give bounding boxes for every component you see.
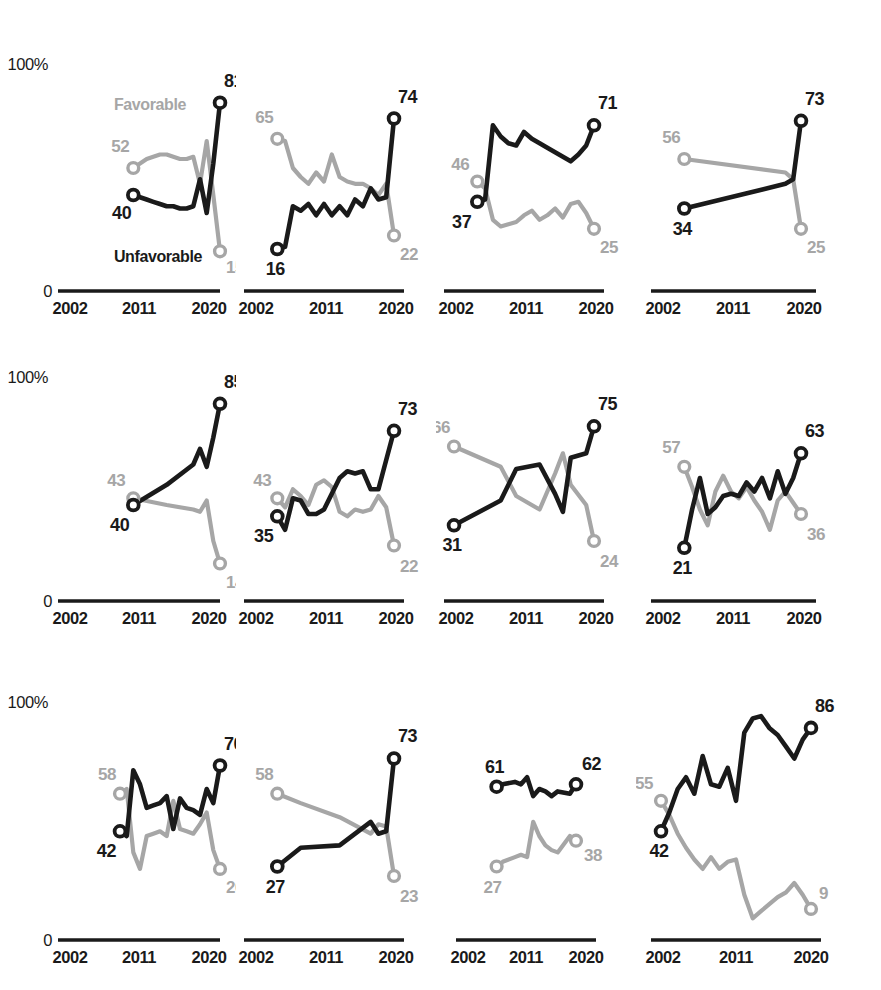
value-label: 63: [805, 421, 825, 441]
endpoint-marker: [215, 398, 226, 409]
endpoint-marker: [589, 421, 600, 432]
value-label: 15: [226, 258, 236, 277]
endpoint-marker: [589, 536, 600, 547]
unfavorable-line: [477, 125, 594, 202]
value-label: 27: [266, 877, 286, 897]
value-label: 25: [600, 238, 618, 257]
endpoint-marker: [679, 461, 690, 472]
value-label: Unfavorable: [114, 248, 203, 265]
value-label: 85: [224, 372, 236, 392]
endpoint-marker: [491, 861, 502, 872]
endpoint-marker: [389, 230, 400, 241]
value-label: 2020: [578, 299, 613, 317]
endpoint-marker: [571, 779, 582, 790]
favorable-line: [454, 447, 594, 542]
value-label: 65: [255, 108, 273, 127]
value-label: 38: [584, 846, 602, 865]
value-label: 2020: [191, 948, 226, 966]
favorable-line: [277, 139, 394, 236]
value-label: 2002: [238, 299, 273, 317]
panel-japan: 5594286200220112020: [636, 650, 881, 990]
endpoint-marker: [272, 788, 283, 799]
value-label: 27: [484, 878, 502, 897]
value-label: 55: [636, 774, 653, 793]
value-label: 2002: [52, 299, 87, 317]
value-label: 2002: [238, 948, 273, 966]
value-label: 81: [224, 71, 236, 91]
value-label: 43: [253, 471, 271, 490]
value-label: 2011: [122, 299, 156, 317]
value-label: 2011: [122, 609, 156, 627]
value-label: 0: [43, 931, 52, 949]
endpoint-marker: [272, 861, 283, 872]
endpoint-marker: [796, 115, 807, 126]
endpoint-marker: [449, 441, 460, 452]
value-label: 21: [673, 558, 693, 578]
value-label: 2002: [438, 299, 473, 317]
endpoint-marker: [272, 511, 283, 522]
value-label: 2020: [378, 609, 413, 627]
panel-us: 43223573200220112020: [236, 325, 436, 650]
panel-germany: 46253771200220112020: [436, 0, 636, 325]
value-label: 70: [224, 734, 236, 754]
value-label: 100%: [7, 693, 48, 711]
value-label: 2011: [309, 299, 343, 317]
endpoint-marker: [272, 493, 283, 504]
value-label: 2020: [786, 299, 821, 317]
value-label: 34: [673, 219, 693, 239]
value-label: 73: [398, 399, 418, 419]
value-label: 62: [582, 754, 602, 774]
endpoint-marker: [272, 133, 283, 144]
endpoint-marker: [272, 244, 283, 255]
endpoint-marker: [796, 448, 807, 459]
value-label: 86: [815, 696, 835, 716]
unfavorable-line: [684, 121, 801, 209]
endpoint-marker: [215, 558, 226, 569]
endpoint-marker: [472, 176, 483, 187]
value-label: 2020: [568, 948, 603, 966]
value-label: 22: [400, 557, 418, 576]
endpoint-marker: [115, 788, 126, 799]
unfavorable-line: [277, 759, 394, 867]
value-label: 26: [226, 878, 236, 897]
value-label: 2011: [509, 299, 543, 317]
value-label: 2002: [52, 609, 87, 627]
value-label: 61: [485, 757, 505, 777]
value-label: 74: [398, 87, 418, 107]
endpoint-marker: [679, 203, 690, 214]
value-label: 2020: [378, 299, 413, 317]
endpoint-marker: [389, 540, 400, 551]
value-label: 40: [110, 515, 130, 535]
value-label: 66: [436, 418, 450, 437]
endpoint-marker: [472, 196, 483, 207]
value-label: 73: [398, 726, 418, 746]
endpoint-marker: [128, 190, 139, 201]
unfavorable-line: [277, 119, 394, 250]
value-label: 71: [598, 93, 618, 113]
endpoint-marker: [679, 154, 690, 165]
value-label: 2020: [578, 609, 613, 627]
value-label: 2020: [786, 609, 821, 627]
endpoint-marker: [796, 509, 807, 520]
endpoint-marker: [449, 520, 460, 531]
unfavorable-line: [277, 431, 394, 530]
endpoint-marker: [215, 246, 226, 257]
value-label: 2002: [645, 948, 680, 966]
endpoint-marker: [571, 835, 582, 846]
endpoint-marker: [656, 826, 667, 837]
endpoint-marker: [215, 760, 226, 771]
value-label: 36: [807, 525, 825, 544]
panel-spain: 57362163200220112020: [636, 325, 881, 650]
favorable-line: [661, 801, 811, 919]
endpoint-marker: [128, 500, 139, 511]
value-label: 2002: [438, 609, 473, 627]
value-label: 0: [43, 282, 52, 300]
value-label: 37: [452, 212, 472, 232]
value-label: 100%: [7, 368, 48, 386]
endpoint-marker: [656, 795, 667, 806]
value-label: 0: [43, 592, 52, 610]
favorable-line: [497, 822, 576, 867]
value-label: 25: [807, 238, 825, 257]
favorable-line: [477, 182, 594, 229]
value-label: 75: [598, 394, 618, 414]
